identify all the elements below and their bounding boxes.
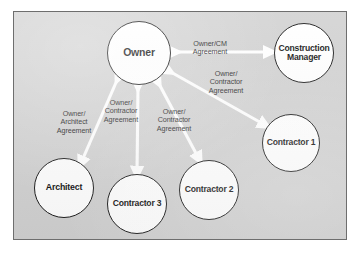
node-owner-label: Owner bbox=[121, 47, 157, 58]
node-architect: Architect bbox=[34, 158, 94, 218]
diagram-panel: Owner/CM Agreement Owner/ Contractor Agr… bbox=[13, 11, 347, 240]
node-contractor-2: Contractor 2 bbox=[179, 160, 239, 220]
edge-owner-arch bbox=[81, 78, 118, 163]
node-owner: Owner bbox=[107, 21, 171, 85]
node-contractor-1: Contractor 1 bbox=[262, 114, 320, 172]
node-construction-manager: Construction Manager bbox=[274, 23, 334, 83]
node-contractor-1-label: Contractor 1 bbox=[265, 138, 318, 147]
node-architect-label: Architect bbox=[44, 183, 84, 193]
node-contractor-2-label: Contractor 2 bbox=[183, 185, 236, 194]
node-contractor-3-label: Contractor 3 bbox=[111, 199, 164, 208]
diagram-root: Owner/CM Agreement Owner/ Contractor Agr… bbox=[0, 0, 361, 254]
node-contractor-3: Contractor 3 bbox=[107, 174, 167, 234]
edge-owner-c3 bbox=[137, 86, 138, 173]
edge-owner-c1 bbox=[169, 71, 265, 125]
node-construction-manager-label: Construction Manager bbox=[275, 44, 333, 63]
edge-owner-c2 bbox=[158, 82, 199, 159]
